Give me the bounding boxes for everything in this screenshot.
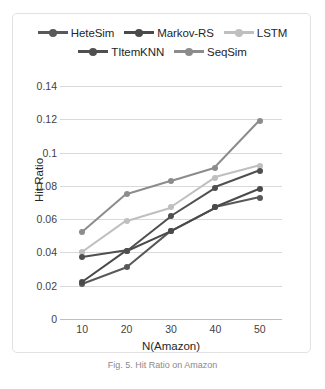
series-line-segment [126,180,171,195]
legend-label: LSTM [257,27,287,39]
legend-label: SeqSim [207,46,247,58]
x-axis-title: N(Amazon) [60,340,282,352]
x-tick-label: 30 [151,323,191,335]
legend-item-titemknn[interactable]: TItemKNN [78,43,164,60]
x-tick-label: 40 [195,323,235,335]
data-point [124,191,130,197]
y-axis-title: Hit Ratio [33,135,45,225]
x-tick-label: 10 [62,323,102,335]
series-line-segment [171,166,216,181]
series-line-segment [81,193,127,233]
data-point [212,165,218,171]
legend-label: HeteSim [71,27,114,39]
legend-item-lstm[interactable]: LSTM [224,24,287,41]
x-axis-line [60,319,282,320]
x-tick-label: 50 [240,323,280,335]
legend-swatch-icon [124,27,154,38]
y-tick-label: 0.02 [13,280,57,292]
legend-label: TItemKNN [111,46,164,58]
legend-item-hetesim[interactable]: HeteSim [38,24,114,41]
figure-container: HeteSimMarkov-RSLSTMTItemKNNSeqSim 00.02… [0,0,325,389]
y-tick-label: 0.04 [13,246,57,258]
chart-frame: HeteSimMarkov-RSLSTMTItemKNNSeqSim 00.02… [12,13,311,353]
legend-swatch-icon [224,27,254,38]
data-point [79,229,85,235]
x-tick-label: 20 [107,323,147,335]
y-tick-label: 0.14 [13,80,57,92]
series-seqsim [60,86,282,319]
legend-label: Markov-RS [157,27,214,39]
series-line-segment [215,120,261,168]
data-point [168,178,174,184]
y-tick-label: 0.12 [13,113,57,125]
figure-caption: Fig. 5. Hit Ratio on Amazon [0,360,325,374]
legend-swatch-icon [38,27,68,38]
legend-swatch-icon [78,46,108,57]
legend-item-markov-rs[interactable]: Markov-RS [124,24,214,41]
legend-item-seqsim[interactable]: SeqSim [174,43,247,60]
legend-swatch-icon [174,46,204,57]
plot-area [60,86,282,319]
data-point [257,118,263,124]
x-axis-tick-labels: 1020304050 [60,323,282,339]
y-tick-label: 0 [13,313,57,325]
chart-legend: HeteSimMarkov-RSLSTMTItemKNNSeqSim [13,24,312,60]
